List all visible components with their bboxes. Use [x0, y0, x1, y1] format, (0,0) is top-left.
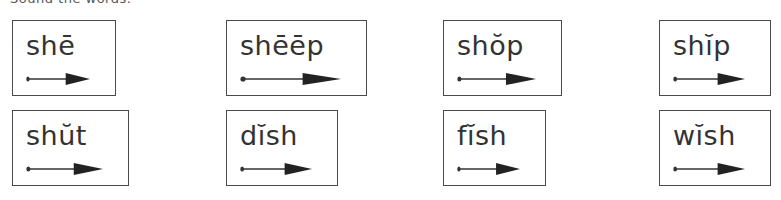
word-label: shŏp — [457, 26, 524, 66]
word-card-1: shēēp — [226, 20, 367, 96]
word-card-7: wĭsh — [659, 110, 771, 186]
word-card-6: fĭsh — [443, 110, 546, 186]
dot-to-arrow-icon — [26, 163, 103, 175]
dot-to-arrow-icon — [240, 73, 341, 85]
dot-to-arrow-icon — [26, 73, 90, 85]
dot-to-arrow-icon — [673, 163, 745, 175]
word-label: shēēp — [240, 26, 324, 66]
word-label: dĭsh — [240, 116, 298, 156]
word-card-3: shĭp — [659, 20, 771, 96]
word-label: wĭsh — [673, 116, 736, 156]
word-label: fĭsh — [457, 116, 507, 156]
word-label: shē — [26, 26, 75, 66]
word-card-5: dĭsh — [226, 110, 338, 186]
dot-to-arrow-icon — [240, 163, 312, 175]
dot-to-arrow-icon — [673, 73, 745, 85]
word-card-0: shē — [12, 20, 116, 96]
word-card-2: shŏp — [443, 20, 562, 96]
word-label: shŭt — [26, 116, 87, 156]
instruction-text-cut-off: Sound the words. — [10, 0, 131, 6]
dot-to-arrow-icon — [457, 163, 520, 175]
dot-to-arrow-icon — [457, 73, 536, 85]
word-card-4: shŭt — [12, 110, 129, 186]
word-label: shĭp — [673, 26, 731, 66]
